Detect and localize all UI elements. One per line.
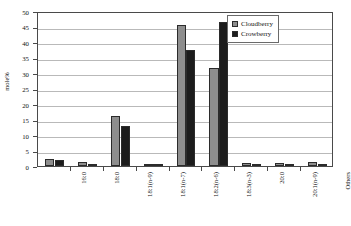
y-tick-label: 15 <box>1 117 29 124</box>
legend-label: Crowberry <box>241 30 271 38</box>
x-tick-label: 20:1(n-9) <box>311 172 318 226</box>
bar-crowberry-8 <box>318 164 327 166</box>
bar-crowberry-1 <box>88 164 97 166</box>
y-tick-label: 35 <box>1 55 29 62</box>
bar-cloudberry-6 <box>242 163 251 166</box>
x-tick-mark <box>136 167 137 171</box>
bar-cloudberry-0 <box>45 159 54 166</box>
legend-swatch-icon <box>232 21 238 27</box>
legend-swatch-icon <box>232 31 238 37</box>
x-tick-mark <box>201 167 202 171</box>
x-tick-label: 18:1(n-7) <box>179 172 186 226</box>
legend-item-crowberry: Crowberry <box>232 29 273 39</box>
x-tick-label: 16:0 <box>80 172 87 226</box>
y-tick-label: 10 <box>1 133 29 140</box>
y-tick-label: 0 <box>1 164 29 171</box>
y-tick-mark <box>33 167 37 168</box>
x-tick-label: 18:0 <box>113 172 120 226</box>
bar-cloudberry-4 <box>177 25 186 166</box>
x-tick-label: Others <box>344 172 351 226</box>
bar-crowberry-2 <box>121 126 130 166</box>
x-tick-mark <box>234 167 235 171</box>
bar-cloudberry-5 <box>209 68 218 166</box>
legend-item-cloudberry: Cloudberry <box>232 19 273 29</box>
y-tick-label: 40 <box>1 40 29 47</box>
x-tick-label: 18:3(n-3) <box>245 172 252 226</box>
bar-crowberry-5 <box>219 22 228 166</box>
bar-cloudberry-3 <box>144 164 153 166</box>
y-tick-label: 20 <box>1 102 29 109</box>
x-tick-mark <box>103 167 104 171</box>
bar-cloudberry-2 <box>111 116 120 166</box>
y-tick-label: 45 <box>1 24 29 31</box>
bar-cloudberry-1 <box>78 162 87 166</box>
x-tick-label: 18:1(n-9) <box>146 172 153 226</box>
x-tick-mark <box>267 167 268 171</box>
x-tick-label: 20:0 <box>278 172 285 226</box>
x-tick-mark <box>169 167 170 171</box>
x-tick-label: 18:2(n-6) <box>212 172 219 226</box>
x-tick-mark <box>70 167 71 171</box>
bar-cloudberry-7 <box>275 163 284 166</box>
legend-label: Cloudberry <box>241 20 273 28</box>
bar-crowberry-3 <box>153 164 162 166</box>
bar-crowberry-4 <box>186 50 195 166</box>
y-tick-label: 25 <box>1 86 29 93</box>
y-tick-label: 50 <box>1 9 29 16</box>
y-axis-title: mole% <box>3 59 10 105</box>
bar-crowberry-7 <box>285 164 294 166</box>
chart-legend: CloudberryCrowberry <box>227 15 279 43</box>
plot-area <box>37 12 333 167</box>
bar-cloudberry-8 <box>308 162 317 166</box>
x-tick-mark <box>300 167 301 171</box>
y-tick-label: 5 <box>1 148 29 155</box>
y-tick-label: 30 <box>1 71 29 78</box>
bar-crowberry-6 <box>252 164 261 166</box>
bar-crowberry-0 <box>55 160 64 167</box>
